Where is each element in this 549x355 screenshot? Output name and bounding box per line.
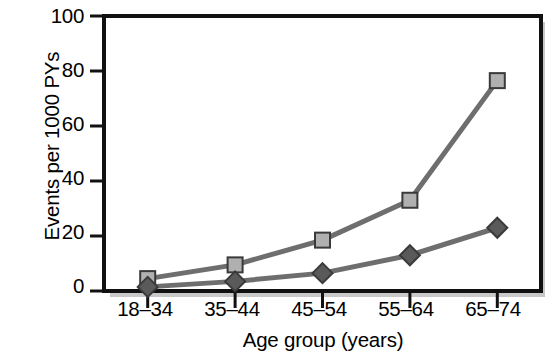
y-axis-ticks — [90, 16, 103, 291]
chart-figure: Events per 1000 PYs 100 80 60 40 20 0 18… — [0, 0, 549, 355]
data-point-square — [490, 73, 505, 88]
data-point-square — [402, 193, 417, 208]
data-point-square — [315, 233, 330, 248]
plot-background — [104, 16, 541, 291]
plot-area — [0, 0, 549, 355]
